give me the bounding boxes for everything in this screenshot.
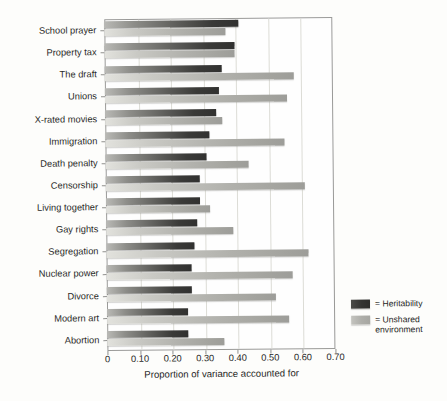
legend-label: = Heritability	[375, 298, 423, 308]
y-axis-label: Modern art	[1, 307, 103, 330]
bar-group	[106, 150, 334, 174]
x-axis-tick-label: 0.20	[164, 353, 182, 363]
bar-unshared-environment	[106, 227, 233, 235]
bar-group	[106, 216, 334, 240]
bar-heritability	[106, 153, 207, 161]
bar-heritability	[107, 286, 192, 294]
bar-heritability	[104, 42, 234, 50]
bar-group	[106, 172, 334, 196]
y-axis-label: Immigration	[0, 130, 102, 153]
bar-heritability	[107, 308, 188, 316]
y-axis-label: Segregation	[0, 240, 102, 263]
bar-unshared-environment	[107, 338, 224, 346]
bar-unshared-environment	[106, 182, 305, 191]
bar-group	[107, 282, 335, 306]
chart-legend: = Heritability = Unshared environment	[351, 298, 446, 341]
bar-unshared-environment	[104, 28, 225, 36]
x-axis-tick-label: 0.50	[261, 352, 279, 362]
bar-unshared-environment	[105, 72, 294, 81]
x-axis-tick-label: 0.30	[196, 353, 214, 363]
y-axis-label: Living together	[0, 196, 102, 219]
bar-heritability	[106, 198, 201, 206]
bar-group	[105, 105, 333, 129]
bar-group	[104, 39, 332, 63]
y-axis-label: Gay rights	[0, 218, 102, 241]
x-axis-title: Proportion of variance accounted for	[108, 367, 336, 380]
bar-group	[107, 260, 335, 284]
legend-label: = Unshared environment	[375, 314, 422, 334]
y-axis-label: Unions	[0, 86, 101, 109]
bar-heritability	[107, 330, 188, 338]
bar-rows	[104, 17, 335, 351]
bar-heritability	[105, 87, 219, 95]
bar-unshared-environment	[107, 315, 289, 324]
bar-heritability	[105, 65, 222, 73]
light-swatch-icon	[351, 316, 370, 325]
bar-unshared-environment	[105, 94, 287, 103]
bar-unshared-environment	[105, 117, 222, 125]
bar-heritability	[106, 220, 197, 228]
y-axis-label: X-rated movies	[0, 108, 101, 131]
bar-unshared-environment	[106, 161, 249, 169]
bar-group	[107, 327, 335, 351]
bar-unshared-environment	[107, 293, 276, 302]
bar-unshared-environment	[107, 271, 293, 280]
bar-group	[105, 128, 333, 152]
y-axis-label: Death penalty	[0, 152, 102, 175]
x-axis-tick-label: 0.10	[131, 354, 149, 364]
bar-chart-figure: School prayerProperty taxThe draftUnions…	[0, 0, 447, 401]
bar-heritability	[106, 242, 194, 250]
bar-heritability	[106, 175, 201, 183]
bar-group	[106, 238, 334, 262]
bar-heritability	[107, 264, 192, 272]
x-axis-tick-label: 0.70	[326, 352, 344, 362]
bar-group	[104, 17, 332, 41]
y-axis-label: The draft	[0, 63, 101, 86]
dark-swatch-icon	[351, 300, 370, 309]
y-axis-label: Abortion	[1, 329, 103, 352]
bar-group	[106, 194, 334, 218]
y-axis-label: Censorship	[0, 174, 102, 197]
y-axis-label: Nuclear power	[1, 263, 103, 286]
bar-unshared-environment	[105, 50, 235, 58]
y-axis-label: Divorce	[1, 285, 103, 308]
legend-item-unshared-environment: = Unshared environment	[351, 314, 446, 335]
y-axis-label: School prayer	[0, 19, 100, 42]
x-axis-tick-label: 0	[105, 354, 110, 364]
bar-group	[107, 305, 335, 329]
bar-unshared-environment	[106, 249, 308, 258]
x-axis-tick-label: 0.40	[229, 353, 247, 363]
x-axis-tick-label: 0.60	[294, 352, 312, 362]
bar-group	[105, 83, 333, 107]
x-axis-tick-labels: 00.100.200.300.400.500.600.70	[1, 351, 447, 369]
bar-heritability	[105, 131, 209, 139]
bar-unshared-environment	[105, 138, 284, 147]
bar-unshared-environment	[106, 205, 210, 213]
bar-group	[105, 61, 333, 85]
legend-item-heritability: = Heritability	[351, 298, 446, 309]
y-axis-label: Property tax	[0, 41, 101, 64]
y-axis-labels: School prayerProperty taxThe draftUnions…	[0, 19, 103, 352]
bar-heritability	[105, 109, 216, 117]
bar-heritability	[104, 20, 238, 28]
